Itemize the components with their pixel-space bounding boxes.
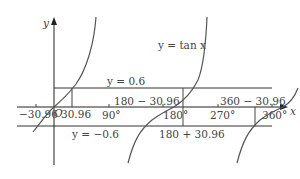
pos-line-label: y = 0.6 xyxy=(107,76,145,87)
tick-label-180: 180° xyxy=(163,110,188,121)
x-axis-label: x xyxy=(290,106,296,117)
annot-neg3096: −30.96 xyxy=(19,109,58,120)
tick-label-90: 90° xyxy=(102,110,121,121)
neg-line-label: y = −0.6 xyxy=(72,129,119,140)
y-axis-label: y xyxy=(43,18,49,29)
annot-3096: 30.96 xyxy=(61,109,91,120)
tick-label-270: 270° xyxy=(210,110,235,121)
annot-180p: 180 + 30.96 xyxy=(159,129,225,140)
tan-label: y = tan x xyxy=(158,40,206,51)
y-axis-arrow-icon xyxy=(51,17,57,25)
tick-label-360: 360° xyxy=(262,110,287,121)
annot-180m: 180 − 30.96 xyxy=(114,96,180,107)
annot-360m: 360 − 30.96 xyxy=(220,96,286,107)
